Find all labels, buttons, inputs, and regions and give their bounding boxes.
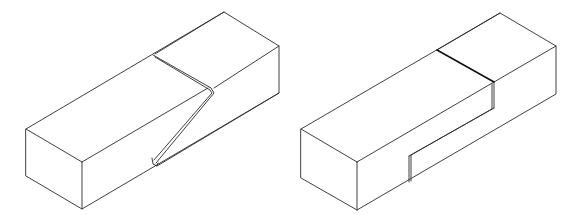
right-cut-top-line (437, 50, 494, 82)
right-block-stepped-halving (301, 13, 556, 210)
left-block-long-edge-back (214, 46, 279, 88)
right-block-long-edge-front (357, 82, 494, 162)
right-block-long-edge-back (494, 46, 556, 82)
left-cut-bottom-link (157, 93, 279, 166)
diagram-svg (0, 0, 582, 224)
right-block-outline (301, 13, 556, 210)
right-cut-step-long-inner (411, 109, 492, 155)
left-block-top-front-edge (26, 129, 82, 162)
left-block-angled-scarf (26, 12, 279, 209)
diagram-canvas (0, 0, 582, 224)
left-block-top-back-edge (155, 12, 224, 54)
right-block-top-front-edge (301, 129, 357, 162)
right-block-top-back-edge (437, 13, 500, 50)
left-block-long-edge-front (82, 88, 208, 162)
left-cut-top-outer (153, 55, 214, 163)
left-block-outline (26, 12, 279, 209)
